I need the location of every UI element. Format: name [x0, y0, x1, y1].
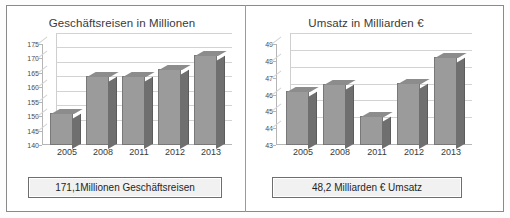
bar-2013[interactable]: [434, 57, 457, 145]
bar-side-face: [72, 114, 81, 149]
x-tick-label-2012: 2012: [158, 147, 192, 157]
x-tick-label-2008: 2008: [323, 147, 357, 157]
x-tick-label-2013: 2013: [194, 147, 228, 157]
bar-2011[interactable]: [360, 116, 383, 145]
bar-group-right: [276, 44, 472, 145]
x-tick-label-2008: 2008: [86, 147, 120, 157]
bar-side-face: [308, 92, 317, 149]
x-tick-label-2011: 2011: [122, 147, 156, 157]
bar-2012[interactable]: [397, 83, 420, 145]
bar-top-face: [287, 87, 319, 92]
bar-2013[interactable]: [194, 55, 217, 145]
bar-top-face: [87, 72, 119, 77]
bar-2012[interactable]: [158, 69, 181, 145]
y-tick-label: 43: [265, 142, 273, 149]
bar-2005[interactable]: [286, 91, 309, 145]
caption-text-right: 48,2 Milliarden € Umsatz: [312, 182, 422, 193]
chart-title-right: Umsatz in Milliarden €: [250, 17, 482, 29]
y-tick-label: 140: [27, 142, 39, 149]
caption-text-left: 171,1Millionen Geschäftsreisen: [55, 182, 195, 193]
bar-top-face: [51, 109, 83, 114]
bar-group-left: [42, 44, 232, 145]
x-tick-label-2012: 2012: [397, 147, 431, 157]
x-tick-label-2005: 2005: [286, 147, 320, 157]
chart-title-left: Geschäftsreisen in Millionen: [12, 17, 232, 29]
bar-top-face: [435, 53, 467, 58]
bar-top-face: [398, 79, 430, 84]
figure-root: Geschäftsreisen in Millionen 20052008201…: [0, 0, 510, 218]
bar-top-face: [195, 51, 227, 56]
bar-top-face: [361, 112, 393, 117]
x-tick-labels-left: 20052008201120122013: [42, 145, 232, 161]
bar-2008[interactable]: [86, 76, 109, 145]
bar-top-face: [324, 80, 356, 85]
bar-side-face: [216, 56, 225, 149]
caption-box-left[interactable]: 171,1Millionen Geschäftsreisen: [28, 177, 222, 198]
plot-area-left: 20052008201120122013 1401451501551601651…: [42, 33, 232, 145]
bar-side-face: [456, 58, 465, 149]
bar-2011[interactable]: [122, 76, 145, 145]
chart-panel-umsatz: Umsatz in Milliarden € 20052008201120122…: [246, 5, 504, 212]
bar-side-face: [419, 84, 428, 149]
x-tick-label-2013: 2013: [434, 147, 468, 157]
x-tick-label-2011: 2011: [360, 147, 394, 157]
bar-top-face: [123, 72, 155, 77]
gridline: [291, 33, 472, 34]
bar-side-face: [345, 85, 354, 149]
bar-side-face: [180, 70, 189, 149]
x-tick-label-2005: 2005: [50, 147, 84, 157]
caption-box-right[interactable]: 48,2 Milliarden € Umsatz: [272, 177, 462, 198]
bar-top-face: [159, 65, 191, 70]
gridline: [57, 33, 232, 34]
plot-area-right: 20052008201120122013 43444546474849: [276, 33, 472, 145]
chart-panel-geschaeftsreisen: Geschäftsreisen in Millionen 20052008201…: [6, 5, 245, 212]
bar-side-face: [144, 77, 153, 149]
bar-2008[interactable]: [323, 84, 346, 145]
y-tick-mark: [273, 145, 276, 146]
bar-side-face: [108, 77, 117, 149]
x-tick-labels-right: 20052008201120122013: [276, 145, 472, 161]
